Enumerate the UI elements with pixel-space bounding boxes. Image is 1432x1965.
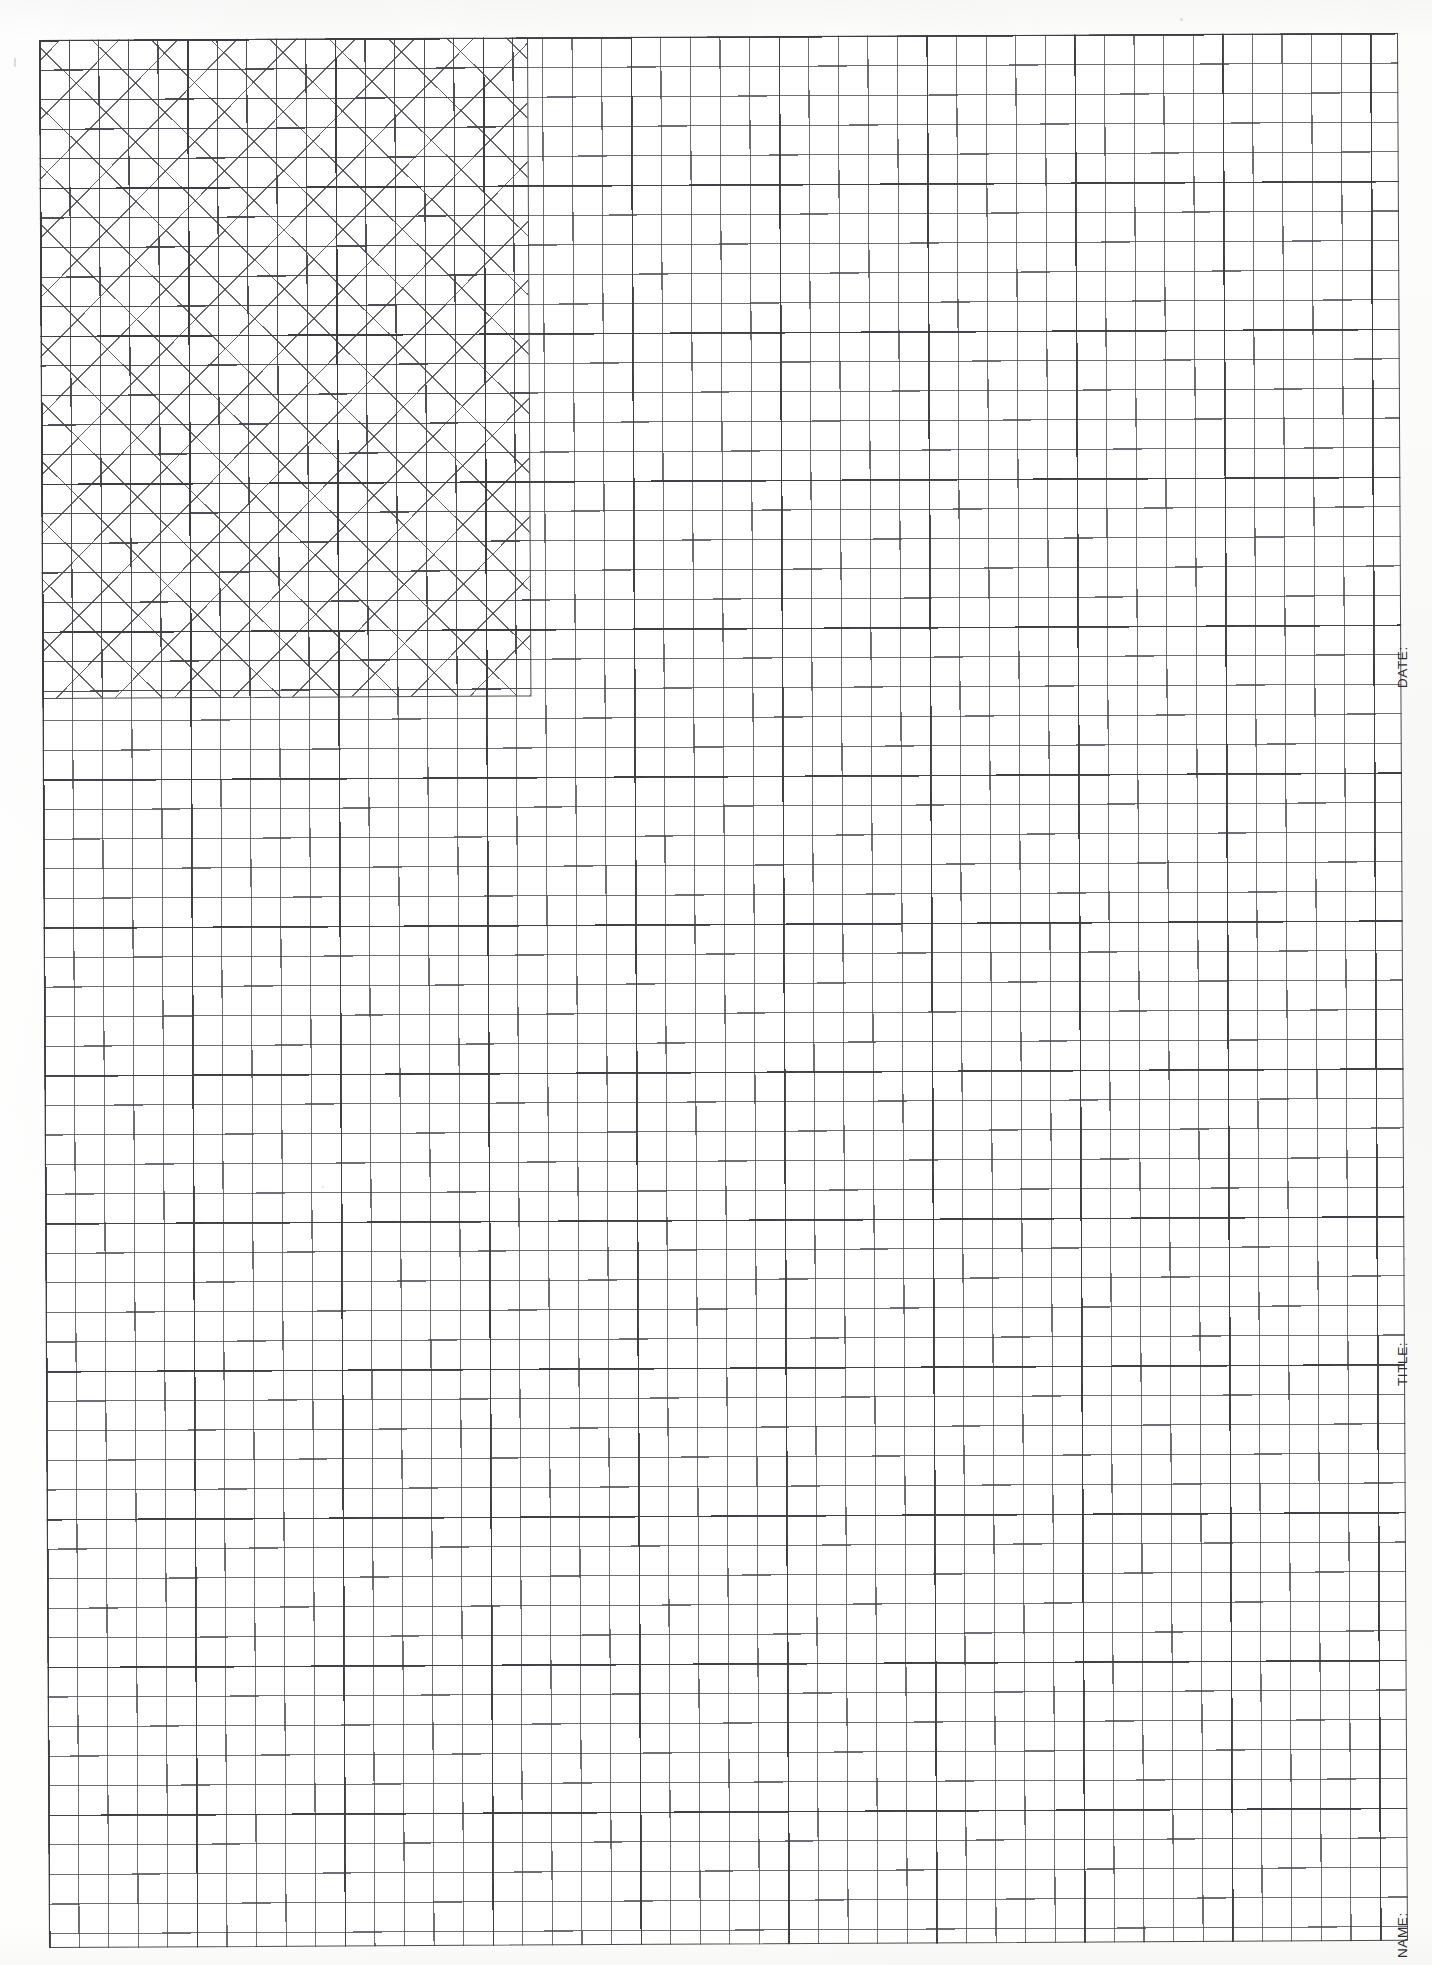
graph-paper-grid xyxy=(39,33,1408,1948)
field-label-date: DATE: xyxy=(1395,646,1410,688)
scan-speck xyxy=(14,58,16,67)
scan-speck xyxy=(1180,18,1183,21)
field-label-title: TITLE: xyxy=(1395,1342,1410,1386)
grid-lines xyxy=(39,33,1408,1948)
field-label-name: NAME: xyxy=(1395,1912,1410,1958)
scan-speck xyxy=(1404,1258,1406,1260)
scan-speck xyxy=(322,1186,324,1188)
